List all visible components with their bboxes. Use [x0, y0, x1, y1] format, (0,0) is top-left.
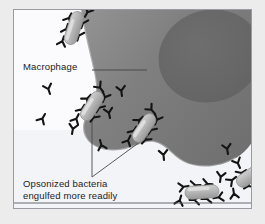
label-opsonized-bacteria: Opsonized bacteria engulfed more readily [23, 178, 118, 201]
bacterium-body [185, 184, 220, 199]
macrophage-cell [80, 10, 251, 167]
diagram-frame: Macrophage Opsonized bacteria engulfed m… [13, 9, 252, 209]
label-macrophage: Macrophage [23, 61, 77, 73]
figure-container: Macrophage Opsonized bacteria engulfed m… [0, 0, 265, 224]
